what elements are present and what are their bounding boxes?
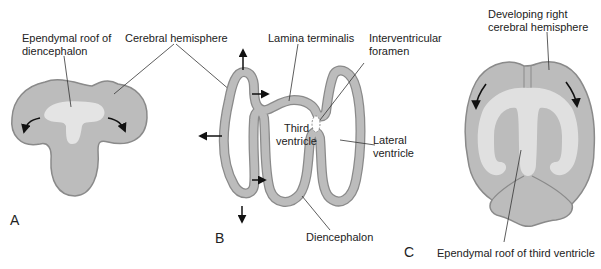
label-line-2: ventricle xyxy=(276,135,317,148)
panel-letter-b: B xyxy=(215,230,224,246)
label-line-1: Interventricular xyxy=(369,32,442,45)
leader-b-cerebral-hemisphere xyxy=(176,44,231,91)
label-line-1: Lateral xyxy=(373,134,414,147)
label-line-2: cerebral hemisphere xyxy=(488,21,588,34)
label-cerebral-hemisphere: Cerebral hemisphere xyxy=(125,32,228,45)
label-developing-right-hemisphere: Developing right cerebral hemisphere xyxy=(488,8,588,34)
leader-b-diencephalon xyxy=(302,196,330,230)
label-ependymal-roof-diencephalon: Ependymal roof of diencephalon xyxy=(22,32,111,58)
label-line-2: diencephalon xyxy=(22,45,111,58)
label-diencephalon: Diencephalon xyxy=(306,231,373,244)
label-line-2: foramen xyxy=(369,45,442,58)
panel-c-ependymal-ventricles xyxy=(478,88,579,176)
panel-letter-a: A xyxy=(10,212,19,228)
label-line-1: Developing right xyxy=(488,8,588,21)
label-lamina-terminalis: Lamina terminalis xyxy=(268,32,354,45)
panel-letter-c: C xyxy=(404,244,414,260)
leader-a-cerebral-hemisphere xyxy=(114,44,174,94)
label-lateral-ventricle: Lateral ventricle xyxy=(373,134,414,160)
leader-b-lamina-terminalis xyxy=(289,44,298,101)
label-line-2: ventricle xyxy=(373,147,414,160)
label-line-1: Third xyxy=(276,122,317,135)
panel-a-brain xyxy=(12,44,231,196)
label-line-1: Ependymal roof of xyxy=(22,32,111,45)
label-third-ventricle: Third ventricle xyxy=(276,122,317,148)
label-interventricular-foramen: Interventricular foramen xyxy=(369,32,442,58)
panel-c-brain xyxy=(465,32,594,242)
label-ependymal-roof-third-ventricle: Ependymal roof of third ventricle xyxy=(437,247,595,260)
